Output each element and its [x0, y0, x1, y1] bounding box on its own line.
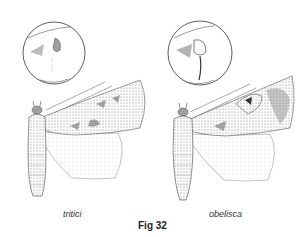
magnified-detail-circle — [23, 22, 85, 84]
moth-tritici — [23, 22, 145, 196]
hindwing — [42, 132, 122, 179]
forewing — [40, 80, 145, 135]
thorax-abdomen — [173, 116, 193, 200]
hindwing — [190, 134, 275, 181]
moth-obelisca — [168, 21, 294, 200]
magnified-detail-circle — [168, 21, 232, 85]
species-label-tritici: tritici — [63, 209, 82, 219]
species-label-obelisca: obelisca — [209, 209, 242, 219]
head — [178, 108, 188, 116]
figure-title: Fig 32 — [138, 220, 167, 231]
moth-figure — [0, 0, 297, 237]
head — [32, 106, 42, 114]
